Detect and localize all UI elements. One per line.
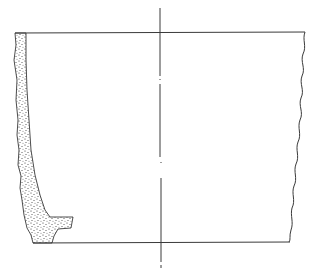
center-axis xyxy=(160,8,161,268)
outer-wall-broken-edge xyxy=(289,32,305,242)
vessel-drawing xyxy=(0,0,316,278)
vessel-profile-section xyxy=(14,33,73,243)
pottery-drawing-canvas xyxy=(0,0,316,278)
